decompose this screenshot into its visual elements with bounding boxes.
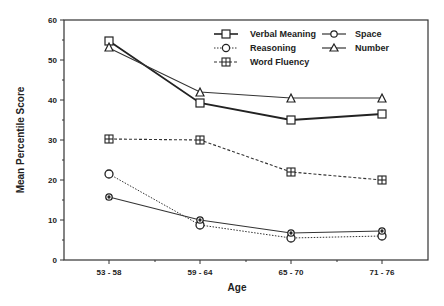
series-reasoning-line xyxy=(109,174,382,238)
plot-frame xyxy=(64,20,428,260)
legend-item-reasoning: Reasoning xyxy=(214,43,296,53)
legend-item-space: Space xyxy=(322,29,382,39)
x-tick-53-58: 53 - 58 xyxy=(97,268,122,277)
x-tick-65-70: 65 - 70 xyxy=(279,268,304,277)
x-axis-title: Age xyxy=(228,282,247,293)
legend-item-verbal-meaning: Verbal Meaning xyxy=(214,29,316,39)
legend-item-number: Number xyxy=(322,43,390,53)
markers-number xyxy=(105,43,386,102)
y-tick-60: 60 xyxy=(48,16,57,25)
svg-text:Number: Number xyxy=(355,43,390,53)
legend: Verbal Meaning Space Reasoning Number Wo… xyxy=(214,29,390,67)
y-tick-50: 50 xyxy=(48,56,57,65)
series-number-line xyxy=(109,48,382,98)
series-word-fluency-line xyxy=(109,139,382,180)
svg-text:Space: Space xyxy=(355,29,382,39)
markers-space xyxy=(106,194,385,236)
x-tick-59-64: 59 - 64 xyxy=(188,268,213,277)
series-verbal-meaning-line xyxy=(109,41,382,120)
line-chart: 0 10 20 30 40 50 60 53 - 58 59 - 64 65 -… xyxy=(0,0,444,306)
y-tick-labels: 0 10 20 30 40 50 60 xyxy=(48,16,57,265)
y-tick-20: 20 xyxy=(48,176,57,185)
x-tick-labels: 53 - 58 59 - 64 65 - 70 71 - 76 xyxy=(97,268,395,277)
x-tick-71-76: 71 - 76 xyxy=(370,268,395,277)
legend-item-word-fluency: Word Fluency xyxy=(214,57,309,67)
svg-text:Word Fluency: Word Fluency xyxy=(250,57,309,67)
y-axis-title: Mean Percentile Score xyxy=(15,86,26,193)
series-space-line xyxy=(109,197,382,233)
y-tick-30: 30 xyxy=(48,136,57,145)
y-tick-0: 0 xyxy=(53,256,58,265)
y-tick-10: 10 xyxy=(48,216,57,225)
x-axis xyxy=(109,260,382,264)
y-tick-40: 40 xyxy=(48,96,57,105)
svg-text:Verbal Meaning: Verbal Meaning xyxy=(250,29,316,39)
svg-text:Reasoning: Reasoning xyxy=(250,43,296,53)
series-lines xyxy=(109,41,382,238)
